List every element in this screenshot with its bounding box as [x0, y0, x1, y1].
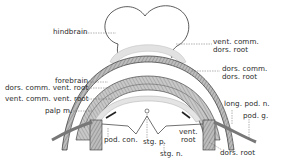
stg-ganglion [145, 109, 149, 113]
label-vent-root-2: root [181, 136, 196, 144]
right-root-block [203, 120, 215, 150]
label-vent-comm-vent-root: vent. comm. vent. root [5, 95, 89, 103]
label-palp-m: palp m. [45, 107, 72, 115]
label-stg-p: stg. p. [143, 138, 166, 146]
label-dors-comm-dors-root-2: dors. root [222, 73, 257, 81]
label-long-pod-n: long. pod. n. [224, 100, 270, 108]
label-hindbrain: hindbrain [53, 28, 88, 36]
label-dors-comm-vent-root: dors. comm. vent. root [5, 84, 88, 92]
label-stg-n: stg. n. [160, 150, 183, 158]
label-dors-root: dors. root [220, 149, 255, 157]
label-pod-con: pod. con. [104, 136, 138, 144]
label-pod-g: pod. g. [243, 112, 268, 120]
left-root-block [90, 120, 102, 150]
label-vent-comm-dors-root-2: dors. root [213, 46, 248, 54]
right-long-pod-nerve [214, 122, 256, 142]
